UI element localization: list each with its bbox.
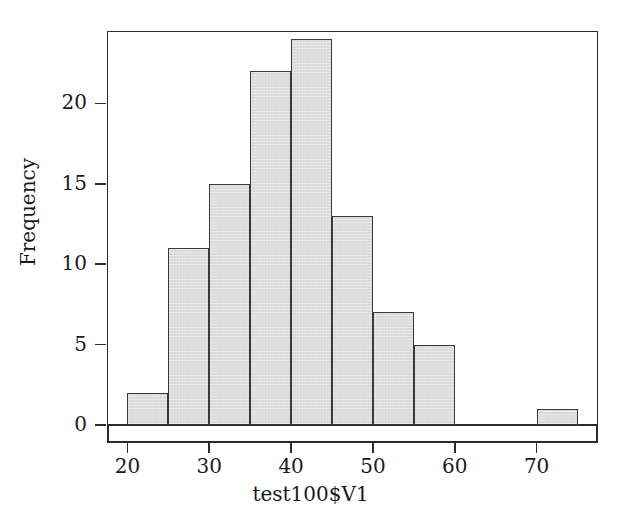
histogram-bar bbox=[291, 39, 332, 425]
histogram-bar bbox=[537, 409, 578, 425]
histogram-bar bbox=[250, 71, 291, 425]
x-axis-title: test100$V1 bbox=[0, 482, 621, 506]
x-axis-rule bbox=[107, 441, 598, 443]
histogram-figure: 05101520 203040506070 test100$V1 Frequen… bbox=[0, 0, 621, 521]
x-tick-label: 50 bbox=[348, 456, 398, 476]
y-tick-label: 20 bbox=[47, 92, 87, 112]
y-tick-mark bbox=[95, 263, 106, 265]
histogram-bar bbox=[332, 216, 373, 425]
y-tick-mark bbox=[95, 103, 106, 105]
y-tick-label: 0 bbox=[47, 414, 87, 434]
x-tick-label: 60 bbox=[430, 456, 480, 476]
y-tick-label: 15 bbox=[47, 173, 87, 193]
y-axis-title: Frequency bbox=[16, 122, 40, 302]
x-tick-mark bbox=[290, 442, 292, 453]
histogram-bars bbox=[107, 31, 598, 425]
y-tick-label: 10 bbox=[47, 253, 87, 273]
x-tick-label: 20 bbox=[102, 456, 152, 476]
x-tick-mark bbox=[208, 442, 210, 453]
histogram-bar bbox=[168, 248, 209, 425]
x-tick-mark bbox=[536, 442, 538, 453]
histogram-bar bbox=[414, 345, 455, 425]
y-tick-mark bbox=[95, 424, 106, 426]
histogram-bar bbox=[127, 393, 168, 425]
histogram-bar bbox=[209, 184, 250, 425]
plot-frame-bottom-left-tick bbox=[107, 425, 109, 442]
x-tick-label: 30 bbox=[184, 456, 234, 476]
x-tick-mark bbox=[127, 442, 129, 453]
y-tick-mark bbox=[95, 344, 106, 346]
y-tick-mark bbox=[95, 183, 106, 185]
plot-frame-bottom-right-tick bbox=[596, 425, 598, 442]
x-tick-label: 40 bbox=[266, 456, 316, 476]
x-tick-mark bbox=[454, 442, 456, 453]
y-tick-label: 5 bbox=[47, 334, 87, 354]
x-tick-label: 70 bbox=[512, 456, 562, 476]
histogram-bar bbox=[373, 312, 414, 425]
x-tick-mark bbox=[372, 442, 374, 453]
